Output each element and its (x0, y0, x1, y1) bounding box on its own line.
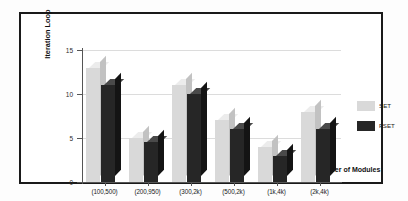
bar-side-face (287, 143, 293, 176)
x-axis-tick-label: (300,2k) (169, 188, 213, 195)
bar-fset-4 (273, 156, 287, 182)
y-axis-tick (77, 50, 82, 51)
x-axis-tick (234, 182, 235, 186)
bar-set-5 (301, 112, 315, 182)
chart-frame: Iteration Loop Number of Modules 051015 … (19, 12, 383, 184)
bar-front-face (215, 120, 229, 182)
y-axis-tick-label: 15 (51, 47, 73, 54)
bar-set-3 (215, 120, 229, 182)
bar-fset-5 (316, 129, 330, 182)
y-axis-tick-label: 5 (51, 135, 73, 142)
y-axis-title: Iteration Loop (43, 0, 52, 76)
bar-set-2 (172, 85, 186, 182)
bar-set-1 (129, 138, 143, 182)
bar-side-face (201, 82, 207, 176)
legend-label-fset: FSET (379, 122, 395, 129)
bar-front-face (230, 129, 244, 182)
bar-front-face (86, 68, 100, 182)
bar-side-face (244, 117, 250, 176)
bar-front-face (301, 112, 315, 182)
bar-front-face (316, 129, 330, 182)
legend-swatch-set (357, 101, 375, 111)
x-axis-tick-label: (100,500) (83, 188, 127, 195)
x-axis-line (82, 182, 342, 183)
x-axis-tick (148, 182, 149, 186)
bar-front-face (129, 138, 143, 182)
bar-fset-1 (144, 142, 158, 182)
chart-figure: Iteration Loop Number of Modules 051015 … (0, 0, 408, 201)
bar-front-face (273, 156, 287, 182)
bar-side-face (330, 117, 336, 176)
bar-fset-0 (101, 85, 115, 182)
y-axis-tick (77, 94, 82, 95)
y-axis-tick (77, 138, 82, 139)
x-axis-tick-label: (500,2k) (212, 188, 256, 195)
y-axis-tick (77, 182, 82, 183)
y-axis-tick-label: 0 (51, 179, 73, 186)
bar-side-face (158, 130, 164, 176)
x-axis-tick (277, 182, 278, 186)
bar-set-0 (86, 68, 100, 182)
bar-front-face (172, 85, 186, 182)
bar-side-face (115, 73, 121, 176)
x-axis-tick (105, 182, 106, 186)
bar-set-4 (258, 147, 272, 182)
legend-item-set: SET (357, 100, 403, 114)
bar-front-face (144, 142, 158, 182)
y-axis-tick-label: 10 (51, 91, 73, 98)
legend-label-set: SET (379, 102, 391, 109)
x-axis-tick-label: (2k,4k) (298, 188, 342, 195)
bar-front-face (258, 147, 272, 182)
x-axis-tick-label: (1k,4k) (255, 188, 299, 195)
x-axis-tick (320, 182, 321, 186)
plot-area (83, 50, 341, 182)
bar-front-face (101, 85, 115, 182)
bar-fset-2 (187, 94, 201, 182)
legend-item-fset: FSET (357, 120, 403, 134)
bar-front-face (187, 94, 201, 182)
chart-legend: SET FSET (357, 100, 403, 140)
x-axis-tick (191, 182, 192, 186)
bar-fset-3 (230, 129, 244, 182)
x-axis-tick-label: (200,950) (126, 188, 170, 195)
legend-swatch-fset (357, 121, 375, 131)
